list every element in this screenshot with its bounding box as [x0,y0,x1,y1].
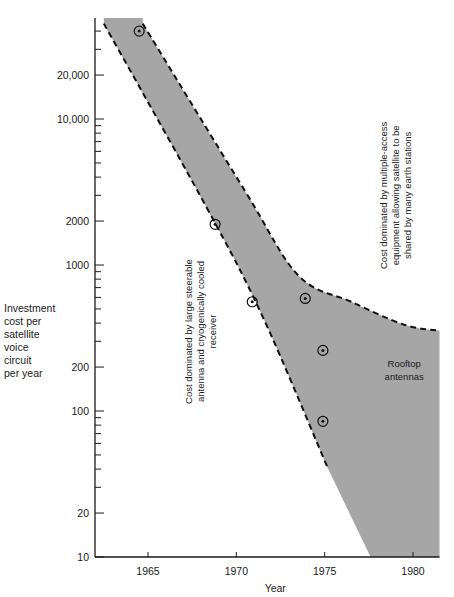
y-label-line: voice [4,341,55,354]
x-tick-label: 1980 [401,565,425,577]
annotation-line: Rooftop [388,358,421,369]
y-tick-label: 200 [71,361,89,373]
data-point-dot [251,300,254,303]
y-tick-label: 20,000 [57,69,89,81]
data-point-dot [321,349,324,352]
x-tick-label: 1970 [225,565,249,577]
annotation-2: Rooftopantennas [385,358,424,382]
y-tick-label: 2000 [66,215,90,227]
annotation-line: antennas [385,371,424,382]
data-point-dot [321,420,324,423]
annotation-line: Cost dominated by multiple-access [378,121,389,269]
band-fill [104,18,440,557]
annotation-line: equipment allowing satellite to be [390,125,401,265]
y-tick-label: 100 [71,405,89,417]
annotation-1: Cost dominated by multiple-accessequipme… [378,121,413,269]
x-tick-label: 1965 [136,565,160,577]
y-label-line: Investment [4,302,55,315]
data-point-dot [214,223,217,226]
y-axis-label: Investment cost per satellite voice circ… [4,302,55,380]
annotation-line: shared by many earth stations [402,131,413,259]
x-tick-label: 1975 [313,565,337,577]
y-label-line: satellite [4,328,55,341]
data-point-dot [138,30,141,33]
cost-band [104,18,440,557]
annotation-line: antenna and cryogenically cooled [195,261,206,402]
x-axis-label: Year [265,582,287,594]
y-tick-label: 1000 [66,259,90,271]
chart: 10201002001000200010,00020,0001965197019… [0,0,454,597]
y-label-line: cost per [4,315,55,328]
y-tick-label: 20 [77,507,89,519]
annotation-0: Cost dominated by large steerableantenna… [183,259,218,404]
lower-boundary-dashed [104,24,328,469]
annotation-line: Cost dominated by large steerable [183,259,194,404]
annotation-line: receiver [207,315,218,349]
y-label-line: circuit [4,354,55,367]
y-label-line: per year [4,367,55,380]
y-tick-label: 10,000 [57,113,89,125]
y-tick-label: 10 [77,551,89,563]
data-point-dot [304,297,307,300]
